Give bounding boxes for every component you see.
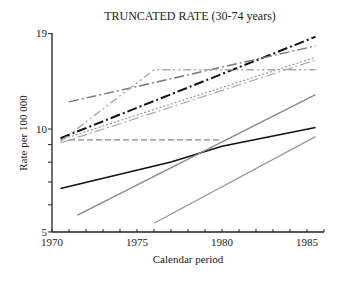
y-tick-label-19: 19 (36, 27, 48, 39)
y-axis-label: Rate per 100 000 (17, 95, 29, 171)
y-tick-label-5: 5 (42, 226, 48, 238)
series-line-4 (61, 60, 316, 143)
chart-title: TRUNCATED RATE (30-74 years) (104, 9, 276, 23)
x-tick-label-1980: 1980 (211, 236, 234, 248)
series-line-8 (154, 137, 316, 224)
y-tick-label-10: 10 (36, 123, 48, 135)
x-axis-label: Calendar period (153, 253, 224, 265)
series-line-1 (69, 46, 316, 102)
series-line-0 (61, 37, 316, 138)
chart: TRUNCATED RATE (30-74 years) 1970 1975 1… (0, 0, 342, 288)
series-group (61, 37, 316, 224)
series-line-7 (78, 95, 316, 215)
x-tick-label-1985: 1985 (296, 236, 319, 248)
x-tick-label-1975: 1975 (126, 236, 149, 248)
series-line-6 (61, 128, 316, 189)
axes (48, 33, 324, 232)
